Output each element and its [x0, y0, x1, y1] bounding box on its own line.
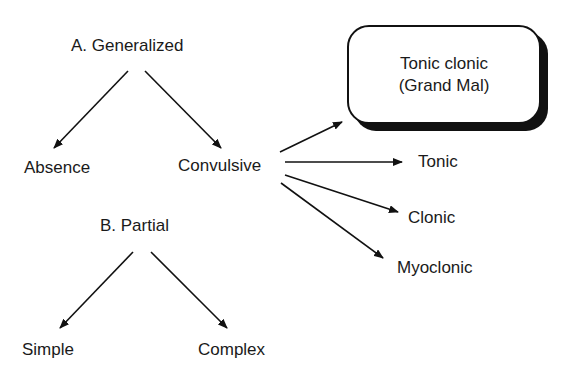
arrow-convulsive-to-tonic-clonic: [280, 122, 342, 152]
node-tonic: Tonic: [418, 152, 458, 172]
node-convulsive: Convulsive: [178, 156, 261, 176]
node-generalized: A. Generalized: [71, 36, 183, 56]
arrow-generalized-to-convulsive: [145, 71, 221, 148]
arrow-convulsive-to-clonic: [285, 175, 398, 212]
node-complex: Complex: [198, 340, 265, 360]
arrow-convulsive-to-myoclonic: [281, 183, 383, 258]
seizure-classification-diagram: A. Generalized Absence Convulsive Tonic …: [0, 0, 567, 377]
arrow-partial-to-simple: [60, 252, 133, 328]
node-tonic-clonic-box: Tonic clonic (Grand Mal): [347, 25, 541, 124]
arrow-partial-to-complex: [151, 252, 227, 328]
node-clonic: Clonic: [408, 208, 455, 228]
node-absence: Absence: [24, 158, 90, 178]
node-myoclonic: Myoclonic: [397, 258, 473, 278]
tonic-clonic-label: Tonic clonic: [400, 53, 488, 75]
node-partial: B. Partial: [100, 216, 169, 236]
arrow-generalized-to-absence: [54, 71, 128, 148]
grand-mal-label: (Grand Mal): [399, 75, 490, 97]
node-simple: Simple: [22, 340, 74, 360]
